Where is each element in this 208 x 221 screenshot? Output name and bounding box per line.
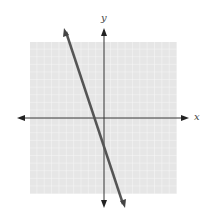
y-axis-top-arrow-icon	[101, 28, 107, 36]
coordinate-plane	[0, 0, 208, 221]
x-axis-left-arrow-icon	[17, 115, 25, 121]
y-axis-bottom-arrow-icon	[101, 200, 107, 208]
y-axis-label: y	[101, 12, 107, 23]
x-axis-right-arrow-icon	[181, 115, 189, 121]
x-axis-label: x	[194, 111, 200, 122]
